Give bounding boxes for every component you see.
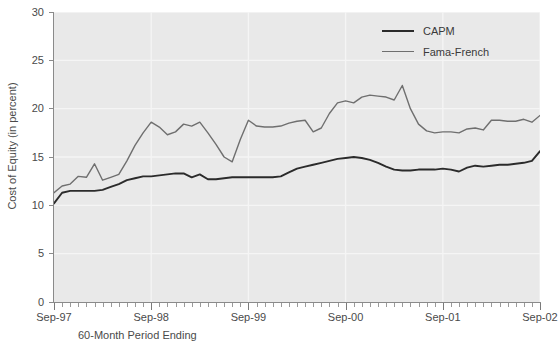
x-tick-mark-major [248,303,249,310]
x-tick-mark-minor [111,303,112,307]
x-tick-mark-minor [459,303,460,307]
x-tick-mark-minor [370,303,371,307]
x-tick-mark-minor [184,303,185,307]
x-tick-mark-minor [176,303,177,307]
y-tick-label: 30 [0,7,44,18]
x-tick-label: Sep-02 [522,311,557,323]
x-tick-mark-minor [281,303,282,307]
x-tick-mark-minor [95,303,96,307]
x-tick-mark-minor [427,303,428,307]
x-tick-mark-minor [119,303,120,307]
y-tick-label: 5 [0,248,44,259]
x-tick-mark-minor [435,303,436,307]
x-tick-mark-minor [508,303,509,307]
x-tick-mark-minor [313,303,314,307]
y-tick: 0 [0,297,54,308]
x-tick-mark-minor [354,303,355,307]
x-tick-mark-minor [167,303,168,307]
y-tick-mark [49,253,54,254]
x-tick-mark-minor [386,303,387,307]
legend-swatch-fama-french [382,51,414,52]
x-tick-mark-minor [516,303,517,307]
y-tick-label: 0 [0,297,44,308]
x-tick-mark-minor [143,303,144,307]
legend-swatch-capm [382,30,414,32]
chart-legend: CAPM Fama-French [382,20,532,62]
x-tick-mark-minor [402,303,403,307]
x-tick-mark-minor [257,303,258,307]
x-tick-mark-minor [192,303,193,307]
x-tick-label: Sep-00 [328,311,363,323]
x-tick-mark-major [151,303,152,310]
x-tick-label: Sep-97 [36,311,71,323]
x-tick-mark-minor [378,303,379,307]
x-tick-mark-minor [240,303,241,307]
series-line-fama-french [54,85,540,192]
x-axis-title: 60-Month Period Ending [78,329,197,341]
x-tick-mark-minor [86,303,87,307]
x-tick-mark-minor [289,303,290,307]
y-tick: 5 [0,248,54,259]
x-tick-mark-minor [216,303,217,307]
y-tick: 30 [0,7,54,18]
x-tick-mark-minor [297,303,298,307]
y-tick-mark [49,108,54,109]
legend-item-fama-french: Fama-French [382,41,532,62]
x-tick-mark-minor [224,303,225,307]
y-axis-title: Cost of Equity (in percent) [6,61,18,231]
x-tick-mark-minor [500,303,501,307]
x-tick-mark-minor [532,303,533,307]
x-tick-mark-major [346,303,347,310]
x-tick-label: Sep-99 [231,311,266,323]
x-tick-mark-minor [467,303,468,307]
legend-label-fama-french: Fama-French [423,46,489,58]
x-tick-mark-minor [410,303,411,307]
x-tick-mark-minor [338,303,339,307]
x-tick-mark-minor [483,303,484,307]
x-tick-mark-minor [159,303,160,307]
x-tick-mark-minor [524,303,525,307]
x-tick-mark-minor [362,303,363,307]
x-tick-mark-minor [265,303,266,307]
y-tick-mark [49,12,54,13]
x-tick-mark-minor [305,303,306,307]
y-tick-mark [49,205,54,206]
x-tick-mark-minor [394,303,395,307]
x-tick-mark-minor [78,303,79,307]
x-tick-label: Sep-98 [133,311,168,323]
x-tick-mark-minor [321,303,322,307]
y-tick-mark [49,157,54,158]
x-tick-mark-minor [475,303,476,307]
y-tick-mark [49,60,54,61]
x-tick-label: Sep-01 [425,311,460,323]
x-tick-mark-major [540,303,541,310]
x-tick-mark-minor [135,303,136,307]
x-tick-mark-minor [127,303,128,307]
x-tick-mark-major [443,303,444,310]
x-tick-mark-minor [62,303,63,307]
series-line-capm [54,151,540,203]
x-tick-mark-minor [491,303,492,307]
x-tick-mark-minor [419,303,420,307]
x-tick-mark-major [54,303,55,310]
x-tick-mark-minor [70,303,71,307]
legend-label-capm: CAPM [423,25,455,37]
x-tick-mark-minor [103,303,104,307]
legend-item-capm: CAPM [382,20,532,41]
x-tick-mark-minor [208,303,209,307]
x-tick-mark-minor [451,303,452,307]
x-tick-mark-minor [329,303,330,307]
x-tick-mark-minor [200,303,201,307]
x-tick-mark-minor [232,303,233,307]
x-tick-mark-minor [273,303,274,307]
